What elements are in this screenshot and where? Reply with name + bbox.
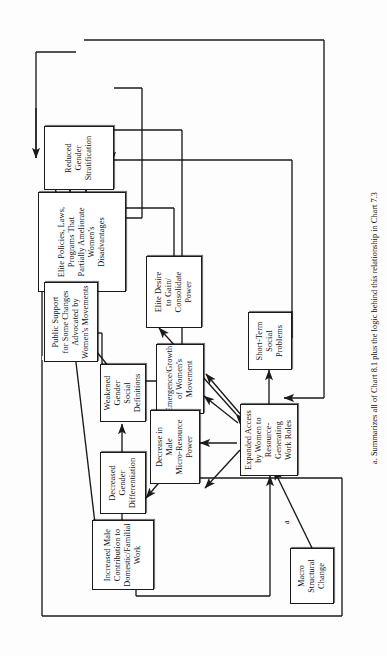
node-weakened-gender-definitions[interactable]: Weakened Gender Social Definitions: [100, 364, 146, 422]
node-elite-desire[interactable]: Elite Desire to Gain/ Consolidate Power: [146, 256, 202, 328]
node-decreased-gender-differentiation[interactable]: Decreased Gender Differentiation: [100, 452, 146, 514]
node-macro-structural-change[interactable]: Macro Structural Change: [290, 548, 334, 604]
node-increased-male-contribution[interactable]: Increased Male Contribution to Domestic/…: [92, 520, 154, 590]
footnote-container: a. Summarizes all of Chart 8.1 plus the …: [363, 0, 385, 656]
flowchart-stage: Reduced Gender Stratification Elite Poli…: [24, 28, 364, 628]
node-elite-policies[interactable]: Elite Policies, Laws, Programs That Part…: [38, 192, 126, 292]
edge-expanded-weakened: [206, 374, 242, 416]
footnote-text: a. Summarizes all of Chart 8.1 plus the …: [370, 192, 379, 464]
node-reduced-gender-stratification[interactable]: Reduced Gender Stratification: [44, 126, 114, 190]
figure-page: Reduced Gender Stratification Elite Poli…: [0, 0, 387, 656]
edge-expanded-to-differentiation: [205, 450, 240, 488]
node-decrease-male-power[interactable]: Decrease in Male Micro-Resource Power: [150, 410, 200, 484]
edge-macro-to-expanded: [274, 470, 312, 548]
node-short-term-problems[interactable]: Short-Term Social Problems: [248, 312, 292, 370]
node-emergence-womens-movement[interactable]: Emergence/Growth of Women's Movement: [156, 344, 204, 414]
node-expanded-access[interactable]: Expanded Access by Women to Resource-Gen…: [240, 404, 298, 476]
footnote-marker-a: a: [282, 520, 291, 524]
node-public-support[interactable]: Public Support for Some Changes Advocate…: [44, 282, 98, 362]
